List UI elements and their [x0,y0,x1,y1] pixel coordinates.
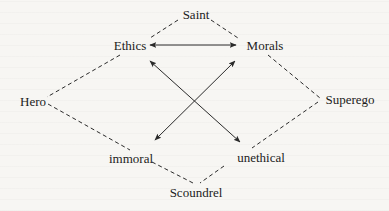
node-immoral: immoral [109,151,153,166]
node-ethics: Ethics [114,38,147,53]
dashed-edge-superego-unethical [252,102,318,148]
node-hero: Hero [20,94,46,109]
node-superego: Superego [325,92,374,107]
dashed-edge-immoral-scoundrel [152,162,193,183]
arrow-morals-immoral [155,61,235,140]
node-saint: Saint [183,7,210,22]
arrow-ethics-unethical [150,61,240,142]
dashed-edge-morals-superego [268,55,320,98]
dashed-edge-hero-immoral [48,104,130,150]
node-unethical: unethical [237,150,285,165]
dashed-edge-ethics-hero [47,55,120,97]
dashed-edge-saint-morals [211,20,238,38]
dashed-edge-unethical-scoundrel [200,166,224,183]
dashed-edge-saint-ethics [150,20,178,38]
node-scoundrel: Scoundrel [170,185,223,200]
node-morals: Morals [247,38,284,53]
